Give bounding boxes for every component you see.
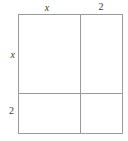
region-bottom-left bbox=[19, 94, 80, 133]
left-lower-dimension-label: 2 bbox=[2, 105, 14, 116]
region-top-right bbox=[81, 15, 122, 93]
top-right-dimension-label: 2 bbox=[94, 1, 108, 12]
top-left-dimension-label: x bbox=[40, 2, 54, 13]
area-model-figure: x 2 x 2 bbox=[0, 0, 128, 141]
left-upper-dimension-label: x bbox=[3, 49, 15, 60]
region-bottom-right bbox=[81, 94, 122, 133]
region-top-left bbox=[19, 15, 80, 93]
